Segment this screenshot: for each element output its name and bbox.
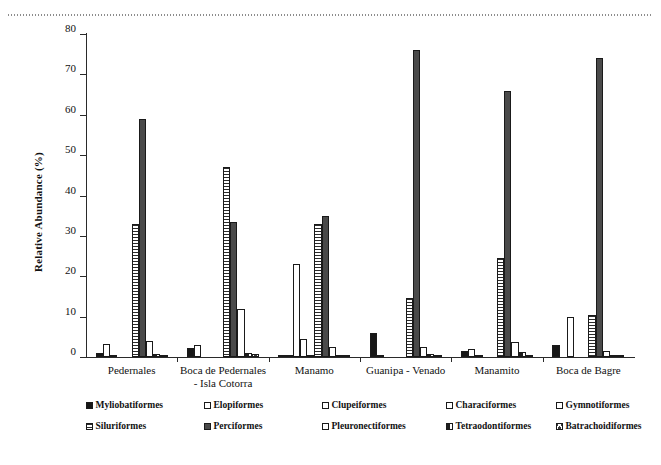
x-axis-label-line: Guanipa - Venado [366,364,445,376]
bar[interactable] [96,353,103,357]
legend-swatch-icon [556,423,563,430]
bar[interactable] [160,355,167,357]
legend-swatch-icon [322,423,329,430]
bar[interactable] [588,315,595,357]
bar[interactable] [223,167,230,357]
x-axis-label: Boca de Pedernales- Isla Cotorra [177,364,268,390]
legend-item[interactable]: Characiformes [446,400,516,410]
legend-item[interactable]: Tetraodontiformes [446,421,531,431]
bar[interactable] [596,58,603,357]
bar[interactable] [434,355,441,357]
bar[interactable] [420,347,427,357]
bar[interactable] [552,345,559,357]
bar[interactable] [103,344,110,357]
legend-item[interactable]: Elopiformes [204,400,263,410]
bar[interactable] [132,224,139,357]
legend-item[interactable]: Myliobatiformes [86,400,163,410]
bar[interactable] [370,333,377,357]
bar[interactable] [461,351,468,357]
x-axis-label-line: Boca de Pedernales [180,364,266,376]
x-axis-label-line: Boca de Bagre [556,364,621,376]
y-tick-label: 20 [36,270,76,271]
bar[interactable] [413,50,420,357]
legend-item[interactable]: Pleuronectiformes [322,421,406,431]
y-tick-label: 80 [36,28,76,29]
legend-swatch-icon [322,402,329,409]
bar[interactable] [329,347,336,357]
figure-container: Relative Abundance (%) 01020304050607080… [0,0,661,465]
x-axis-label-line: Manamito [474,364,519,376]
legend-swatch-icon [86,402,93,409]
legend-swatch-icon [86,423,93,430]
bar[interactable] [427,354,434,357]
bar[interactable] [110,355,117,357]
x-axis-label: Boca de Bagre [543,364,634,377]
legend-label: Gymnotiformes [566,400,630,410]
legend-item[interactable]: Gymnotiformes [556,400,629,410]
chart-legend: MyliobatiformesElopiformesClupeiformesCh… [86,400,631,442]
bar[interactable] [603,351,610,357]
bar[interactable] [245,353,252,357]
bar[interactable] [322,216,329,357]
legend-label: Myliobatiformes [96,400,164,410]
legend-item[interactable]: Perciformes [204,421,262,431]
bar[interactable] [194,345,201,357]
bar[interactable] [252,354,259,357]
x-axis-label: Guanipa - Venado [360,364,451,377]
bar[interactable] [307,355,314,357]
bar[interactable] [230,222,237,357]
bar[interactable] [146,341,153,357]
legend-item[interactable]: Siluriformes [86,421,146,431]
bar[interactable] [468,349,475,357]
y-tick-label: 50 [36,149,76,150]
legend-row: SiluriformesPerciformesPleuronectiformes… [86,421,631,438]
bar[interactable] [377,355,384,357]
legend-swatch-icon [204,402,211,409]
bar[interactable] [343,355,350,357]
x-axis-label: Pedernales [86,364,177,377]
bar[interactable] [519,352,526,357]
bar[interactable] [511,342,518,357]
x-axis-label-line: Manamo [295,364,334,376]
bar[interactable] [617,355,624,357]
bar[interactable] [475,355,482,357]
y-tick [80,357,86,358]
bar[interactable] [153,354,160,357]
legend-item[interactable]: Batrachoidiformes [556,421,642,431]
legend-label: Batrachoidiformes [566,421,642,431]
x-axis-label-line: Pedernales [108,364,156,376]
bar-group [451,34,542,357]
bar[interactable] [526,355,533,357]
top-dotted-rule [8,14,653,16]
legend-label: Siluriformes [96,421,147,431]
bar[interactable] [286,355,293,357]
bar[interactable] [278,355,285,357]
x-axis-label: Manamito [451,364,542,377]
legend-swatch-icon [204,423,211,430]
bar[interactable] [504,91,511,357]
bar[interactable] [300,339,307,357]
legend-item[interactable]: Clupeiformes [322,400,386,410]
bar[interactable] [610,355,617,357]
bar[interactable] [336,355,343,357]
x-tick [177,357,178,362]
bar[interactable] [139,119,146,357]
y-tick-label: 0 [36,351,76,352]
bar-group [543,34,634,357]
bar[interactable] [293,264,300,357]
plot-area [86,34,634,357]
bar[interactable] [187,348,194,357]
y-tick-label: 30 [36,230,76,231]
x-tick [269,357,270,362]
y-axis-title: Relative Abundance (%) [32,112,44,272]
legend-row: MyliobatiformesElopiformesClupeiformesCh… [86,400,631,417]
x-axis-label-line: - Isla Cotorra [177,377,268,390]
bar-group [360,34,451,357]
bar[interactable] [497,258,504,357]
bar[interactable] [406,298,413,357]
bar[interactable] [314,224,321,357]
legend-swatch-icon [556,402,563,409]
bar[interactable] [567,317,574,357]
legend-label: Tetraodontiformes [456,421,532,431]
bar[interactable] [237,309,244,357]
